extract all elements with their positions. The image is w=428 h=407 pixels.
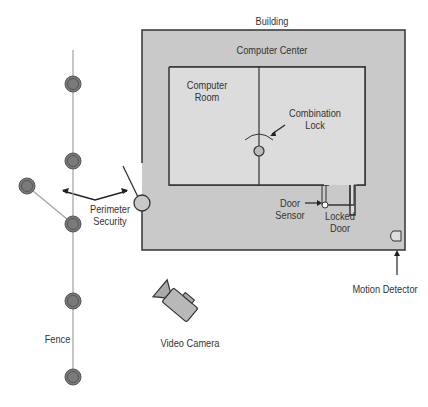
label-perimeter-security-1: Perimeter (84, 203, 137, 215)
label-computer-room-2: Room (181, 91, 234, 103)
label-computer-center: Computer Center (228, 44, 316, 56)
video-camera-icon (153, 278, 201, 323)
motion-detector (391, 231, 402, 275)
label-locked-door-1: Locked (322, 210, 357, 222)
label-video-camera: Video Camera (155, 337, 225, 349)
label-building: Building (241, 15, 303, 27)
label-door-sensor-1: Door (272, 197, 307, 209)
label-fence: Fence (42, 333, 73, 345)
label-computer-room-1: Computer (181, 79, 234, 91)
label-door-sensor-2: Sensor (272, 209, 307, 221)
label-perimeter-security-2: Security (84, 215, 137, 227)
label-motion-detector: Motion Detector (345, 283, 424, 295)
label-combination-lock-1: Combination (284, 107, 346, 119)
label-locked-door-2: Door (322, 222, 357, 234)
perimeter-arrows (62, 188, 128, 200)
label-combination-lock-2: Lock (284, 119, 346, 131)
